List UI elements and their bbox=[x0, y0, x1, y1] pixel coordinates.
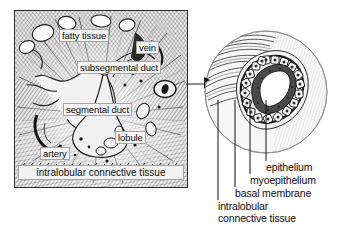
label-subsegmental-duct: subsegmental duct bbox=[77, 61, 161, 74]
label-basal-membrane: basal membrane bbox=[235, 187, 311, 199]
label-vein: vein bbox=[136, 41, 159, 54]
label-lobule: lobule bbox=[115, 131, 146, 144]
label-intralobular-line1: intralobular bbox=[218, 200, 268, 212]
label-intralobular-line2: connective tissue bbox=[218, 212, 296, 224]
tissue-overview-panel: fatty tissue vein subsegmental duct segm… bbox=[14, 10, 188, 188]
label-segmental-duct: segmental duct bbox=[63, 103, 132, 116]
inset-label-group: epithelium myoepithelium basal membrane … bbox=[204, 100, 341, 200]
label-artery: artery bbox=[40, 147, 70, 160]
anatomical-figure: fatty tissue vein subsegmental duct segm… bbox=[0, 0, 341, 236]
label-intralobular-connective-tissue: intralobular connective tissue bbox=[18, 165, 184, 180]
label-myoepithelium: myoepithelium bbox=[250, 174, 316, 186]
label-fatty-tissue: fatty tissue bbox=[59, 29, 109, 42]
label-epithelium: epithelium bbox=[266, 161, 312, 173]
